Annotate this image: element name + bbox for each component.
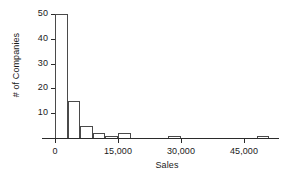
histogram-bar — [55, 14, 68, 138]
x-tick-mark — [181, 139, 182, 143]
histogram-bar — [80, 126, 93, 138]
histogram-bar — [68, 101, 81, 138]
x-axis-label: Sales — [55, 160, 279, 170]
x-tick-label: 15,000 — [94, 146, 142, 156]
x-tick-mark — [118, 139, 119, 143]
x-tick-label: 45,000 — [220, 146, 268, 156]
x-tick-label: 30,000 — [157, 146, 205, 156]
x-tick-label: 0 — [31, 146, 79, 156]
x-tick-mark — [55, 139, 56, 143]
x-tick-mark — [244, 139, 245, 143]
histogram-figure: # of Companies 1020304050 015,00030,0004… — [0, 0, 287, 180]
